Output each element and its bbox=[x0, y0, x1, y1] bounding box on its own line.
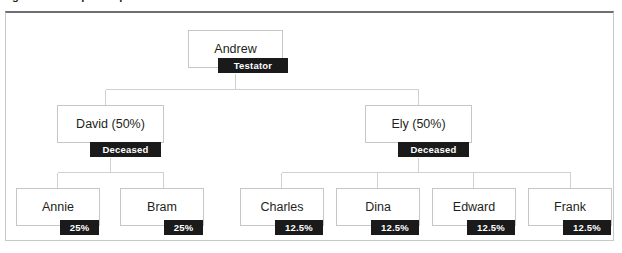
badge-label: 12.5% bbox=[573, 222, 601, 233]
badge-bram-share: 25% bbox=[164, 220, 203, 235]
diagram-canvas: Figure 6.1 The per stirpes distribution … bbox=[0, 0, 622, 253]
badge-edward-share: 12.5% bbox=[467, 220, 515, 235]
badge-label: 25% bbox=[174, 222, 194, 233]
node-label: Ely (50%) bbox=[391, 118, 445, 131]
node-label: Andrew bbox=[214, 43, 256, 56]
badge-label: 12.5% bbox=[381, 222, 409, 233]
badge-label: 12.5% bbox=[285, 222, 313, 233]
badge-testator: Testator bbox=[218, 58, 288, 73]
figure-caption: Figure 6.1 The per stirpes distribution … bbox=[0, 0, 622, 10]
node-label: Bram bbox=[147, 201, 177, 214]
badge-dina-share: 12.5% bbox=[371, 220, 419, 235]
badge-charles-share: 12.5% bbox=[275, 220, 323, 235]
figure-caption-text: Figure 6.1 The per stirpes distribution … bbox=[2, 0, 269, 2]
node-label: Charles bbox=[260, 201, 303, 214]
node-ely[interactable]: Ely (50%) bbox=[365, 105, 472, 143]
node-label: David (50%) bbox=[76, 118, 145, 131]
badge-label: 12.5% bbox=[477, 222, 505, 233]
badge-label: Deceased bbox=[103, 144, 149, 155]
node-david[interactable]: David (50%) bbox=[57, 105, 164, 143]
badge-label: Testator bbox=[234, 60, 272, 71]
node-label: Frank bbox=[554, 201, 586, 214]
badge-ely-deceased: Deceased bbox=[398, 142, 469, 157]
node-label: Dina bbox=[365, 201, 391, 214]
badge-annie-share: 25% bbox=[60, 220, 99, 235]
badge-frank-share: 12.5% bbox=[563, 220, 611, 235]
badge-label: Deceased bbox=[411, 144, 457, 155]
badge-label: 25% bbox=[70, 222, 90, 233]
node-label: Annie bbox=[42, 201, 74, 214]
node-label: Edward bbox=[453, 201, 495, 214]
badge-david-deceased: Deceased bbox=[90, 142, 161, 157]
